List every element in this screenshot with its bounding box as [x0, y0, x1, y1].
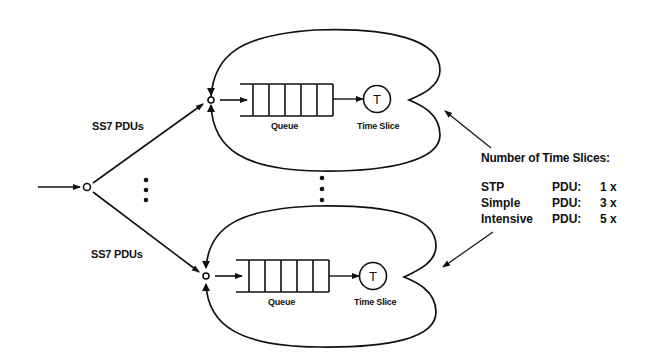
- queue-label-top: Queue: [271, 121, 298, 131]
- server-top: T: [207, 30, 440, 171]
- queue-label-bottom: Queue: [268, 297, 295, 307]
- legend-count: 5 x: [600, 212, 617, 226]
- input-label-lower: SS7 PDUs: [91, 248, 143, 260]
- timer-symbol-top: T: [373, 92, 381, 107]
- queue-bottom: [236, 260, 329, 292]
- legend-type: Intensive: [481, 212, 533, 226]
- branch-arrow-upper: [93, 104, 203, 183]
- queue-top: [240, 84, 333, 116]
- branch-arrow-lower: [93, 192, 199, 272]
- merge-node-bottom: [203, 273, 209, 279]
- ellipsis-dots-middle: [320, 176, 325, 203]
- input-label-upper: SS7 PDUs: [92, 120, 144, 132]
- legend-pointer-upper: [445, 111, 491, 148]
- server-bottom: T: [202, 206, 436, 347]
- diagram-canvas: T T SS7 PDUs: [0, 0, 665, 364]
- legend-unit: PDU:: [552, 196, 581, 210]
- timer-label-top: Time Slice: [357, 121, 399, 131]
- legend-title: Number of Time Slices:: [481, 151, 610, 165]
- legend-count: 3 x: [600, 196, 617, 210]
- legend-unit: PDU:: [552, 212, 581, 226]
- merge-node-top: [208, 97, 214, 103]
- legend-type: STP: [481, 180, 504, 194]
- timer-symbol-bottom: T: [369, 269, 377, 284]
- timer-label-bottom: Time Slice: [354, 297, 396, 307]
- legend-pointer-lower: [443, 232, 493, 267]
- legend-unit: PDU:: [552, 180, 581, 194]
- ellipsis-dots-left: [144, 178, 149, 203]
- source-node: [84, 184, 91, 191]
- legend-type: Simple: [481, 196, 520, 210]
- legend-count: 1 x: [600, 180, 617, 194]
